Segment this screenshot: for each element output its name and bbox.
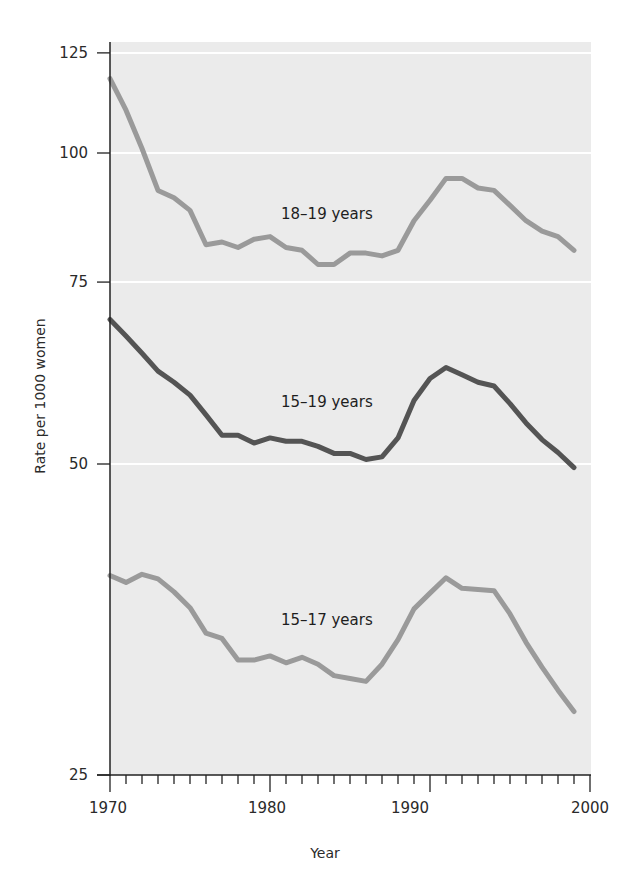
x-axis-title: Year <box>309 845 340 861</box>
y-tick-label-75: 75 <box>69 273 88 291</box>
x-tick-label-1970: 1970 <box>89 799 127 817</box>
y-tick-label-50: 50 <box>69 455 88 473</box>
y-axis-ticks <box>97 53 110 775</box>
x-tick-label-1990: 1990 <box>391 799 429 817</box>
y-axis-title: Rate per 1000 women <box>32 318 48 473</box>
y-tick-label-125: 125 <box>59 44 88 62</box>
y-tick-label-25: 25 <box>69 766 88 784</box>
x-axis-ticks <box>110 775 590 792</box>
y-tick-label-100: 100 <box>59 144 88 162</box>
series-label-18-19: 18–19 years <box>281 205 373 223</box>
x-tick-label-2000: 2000 <box>571 799 609 817</box>
series-label-15-19: 15–19 years <box>281 393 373 411</box>
x-tick-label-1980: 1980 <box>248 799 286 817</box>
line-chart: 18–19 years 15–19 years 15–17 years 125 … <box>0 0 637 871</box>
series-label-15-17: 15–17 years <box>281 611 373 629</box>
